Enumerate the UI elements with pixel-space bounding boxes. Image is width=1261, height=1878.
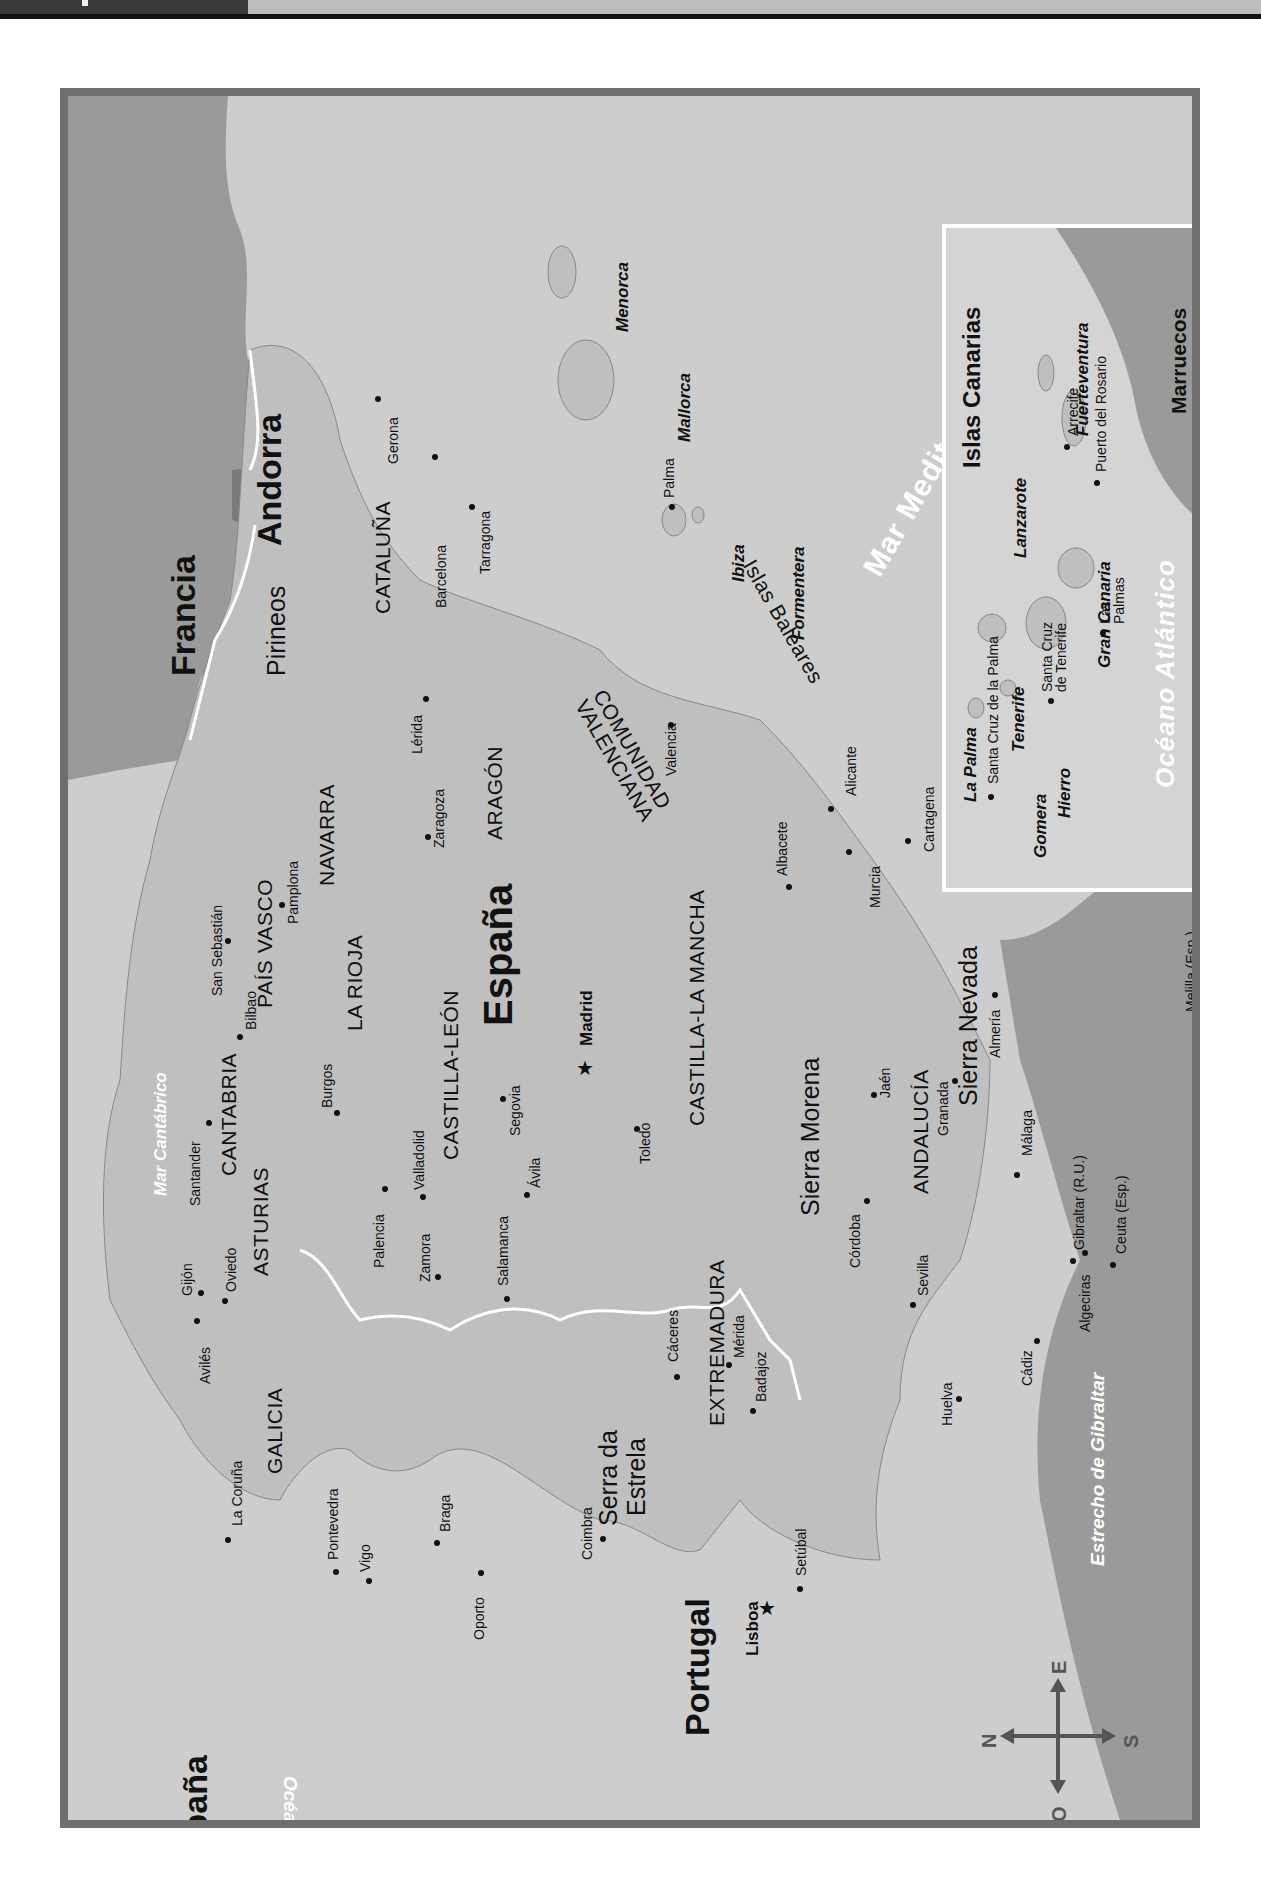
city-dot xyxy=(435,1274,441,1280)
capital-label-madrid: Madrid xyxy=(578,990,595,1046)
city-label-pamplona: Pamplona xyxy=(286,861,300,924)
city-label-valencia: Valencia xyxy=(664,723,678,776)
city-dot xyxy=(206,1120,212,1126)
region-label-castilla-la-mancha: CASTILLA-LA MANCHA xyxy=(686,889,707,1126)
region-label-aragon: ARAGÓN xyxy=(484,746,505,840)
city-label-san-sebastian: San Sebastián xyxy=(210,905,224,996)
city-dot xyxy=(956,1396,962,1402)
inset-city-de-tenerife: de Tenerife xyxy=(1054,623,1068,692)
city-dot xyxy=(194,1318,200,1324)
header-bar-light xyxy=(248,0,1261,14)
region-label-andalucia: ANDALUCÍA xyxy=(910,1069,931,1194)
city-label-lerida: Lérida xyxy=(410,715,424,754)
mountain-label-serra-da: Serra da xyxy=(596,1430,621,1526)
mountain-label-sierra-nevada: Sierra Nevada xyxy=(956,946,981,1106)
city-dot xyxy=(1082,1250,1088,1256)
city-dot xyxy=(750,1408,756,1414)
city-dot xyxy=(434,1540,440,1546)
city-label-sevilla: Sevilla xyxy=(916,1255,930,1296)
city-dot xyxy=(674,1374,680,1380)
city-label-gibraltar: Gibraltar (R.U.) xyxy=(1072,1155,1086,1250)
city-dot xyxy=(1048,698,1054,704)
country-label-espana-corner: España xyxy=(178,1755,212,1820)
compass-east-label: E xyxy=(1048,1661,1071,1674)
city-dot xyxy=(1100,630,1106,636)
city-label-toledo: Toledo xyxy=(638,1123,652,1164)
city-dot xyxy=(237,1034,243,1040)
city-dot xyxy=(905,838,911,844)
inset-island-hierro: Hierro xyxy=(1056,768,1073,818)
city-label-oporto: Oporto xyxy=(472,1597,486,1640)
city-label-gerona: Gerona xyxy=(386,417,400,464)
inset-city-arrecife: Arrecife xyxy=(1066,388,1080,436)
region-label-galicia: GALICIA xyxy=(264,1388,285,1474)
city-dot xyxy=(524,1192,530,1198)
city-label-cartagena: Cartagena xyxy=(922,787,936,852)
city-label-avila: Ávila xyxy=(528,1158,542,1188)
capital-star-icon-madrid: ★ xyxy=(576,1058,594,1078)
inset-city-las: Las xyxy=(1098,601,1112,624)
city-dot xyxy=(198,1290,204,1296)
city-label-gijon: Gijón xyxy=(180,1263,194,1296)
map-canvas: España Francia Andorra España Portugal M… xyxy=(68,96,1192,1820)
city-label-braga: Braga xyxy=(438,1495,452,1532)
city-label-salamanca: Salamanca xyxy=(496,1216,510,1286)
city-dot xyxy=(797,1586,803,1592)
city-label-bilbao: Bilbao xyxy=(244,991,258,1030)
inset-island-lanzarote: Lanzarote xyxy=(1012,478,1029,558)
city-dot xyxy=(334,1110,340,1116)
inset-ocean-label: Océano Atlántico xyxy=(1152,559,1178,788)
city-label-alicante: Alicante xyxy=(844,746,858,796)
island-label-formentera: Formentera xyxy=(790,546,807,640)
city-dot xyxy=(1034,1338,1040,1344)
city-label-santander: Santander xyxy=(188,1141,202,1206)
city-dot xyxy=(432,454,438,460)
city-dot xyxy=(375,396,381,402)
inset-island-gomera: Gomera xyxy=(1032,794,1049,858)
inset-country-marruecos: Marruecos xyxy=(1168,308,1189,414)
city-dot xyxy=(846,849,852,855)
city-dot xyxy=(366,1578,372,1584)
country-label-portugal: Portugal xyxy=(680,1598,714,1736)
compass-north-label: N xyxy=(978,1734,1001,1748)
city-label-huelva: Huelva xyxy=(940,1382,954,1426)
city-dot xyxy=(382,1186,388,1192)
city-label-vigo: Vigo xyxy=(358,1544,372,1572)
city-label-badajoz: Badajoz xyxy=(754,1351,768,1402)
compass-rose-icon xyxy=(998,1676,1118,1796)
city-label-burgos: Burgos xyxy=(320,1064,334,1108)
city-label-cadiz: Cádiz xyxy=(1020,1350,1034,1386)
header-tab-marker xyxy=(82,0,88,6)
city-dot xyxy=(222,1298,228,1304)
region-label-extremadura: EXTREMADURA xyxy=(706,1259,727,1426)
city-label-zamora: Zamora xyxy=(418,1234,432,1282)
region-label-castilla-leon: CASTILLA-LEÓN xyxy=(440,990,461,1160)
city-label-segovia: Segovia xyxy=(508,1085,522,1136)
city-label-jaen: Jaén xyxy=(878,1068,892,1098)
country-label-francia: Francia xyxy=(166,555,200,676)
city-dot xyxy=(828,806,834,812)
island-label-menorca: Menorca xyxy=(614,262,631,332)
city-dot xyxy=(786,884,792,890)
city-dot xyxy=(225,938,231,944)
city-label-murcia: Murcia xyxy=(868,866,882,908)
island-label-ibiza: Ibiza xyxy=(730,544,747,582)
city-dot xyxy=(952,1078,958,1084)
city-label-palencia: Palencia xyxy=(372,1214,386,1268)
city-dot xyxy=(420,1194,426,1200)
city-dot xyxy=(423,696,429,702)
city-label-palma: Palma xyxy=(662,458,676,498)
inset-title: Islas Canarias xyxy=(960,307,984,468)
region-label-navarra: NAVARRA xyxy=(316,784,337,886)
city-dot xyxy=(992,992,998,998)
city-label-ceuta: Ceuta (Esp.) xyxy=(1114,1175,1128,1254)
inset-city-palmas: Palmas xyxy=(1112,577,1126,624)
city-label-barcelona: Barcelona xyxy=(434,545,448,608)
sea-label-gibraltar: Estrecho de Gibraltar xyxy=(1088,1373,1107,1566)
region-label-cataluna: CATALUÑA xyxy=(372,501,393,614)
compass-west-label: O xyxy=(1048,1806,1071,1820)
region-label-cantabria: CANTABRIA xyxy=(218,1053,239,1176)
city-dot xyxy=(669,504,675,510)
inset-city-puerto-del-rosario: Puerto del Rosario xyxy=(1094,356,1108,472)
canarias-inset: Islas Canarias La Palma Tenerife Gomera … xyxy=(942,224,1192,892)
